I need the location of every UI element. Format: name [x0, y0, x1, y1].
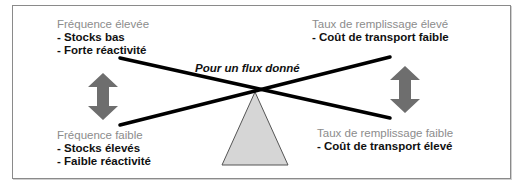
bottom-right-heading: Taux de remplissage faible [317, 127, 453, 140]
double-vertical-arrow-icon [390, 66, 420, 113]
bottom-left-item: - Stocks élevés [57, 142, 151, 155]
top-left-item: - Stocks bas [57, 31, 149, 44]
top-left-block: Fréquence élevée - Stocks bas - Forte ré… [57, 18, 149, 57]
top-left-heading: Fréquence élevée [57, 18, 149, 31]
triangle-fulcrum-icon [222, 92, 288, 165]
top-left-item: - Forte réactivité [57, 44, 149, 57]
bottom-right-item: - Coût de transport élevé [317, 140, 453, 153]
bottom-right-block: Taux de remplissage faible - Coût de tra… [317, 127, 453, 153]
center-label: Pour un flux donné [195, 62, 300, 74]
bottom-left-item: - Faible réactivité [57, 155, 151, 168]
bottom-left-heading: Fréquence faible [57, 129, 151, 142]
top-right-block: Taux de remplissage élevé - Coût de tran… [312, 18, 449, 44]
bottom-left-block: Fréquence faible - Stocks élevés - Faibl… [57, 129, 151, 168]
top-right-item: - Coût de transport faible [312, 31, 449, 44]
top-right-heading: Taux de remplissage élevé [312, 18, 449, 31]
double-vertical-arrow-icon [88, 73, 118, 120]
